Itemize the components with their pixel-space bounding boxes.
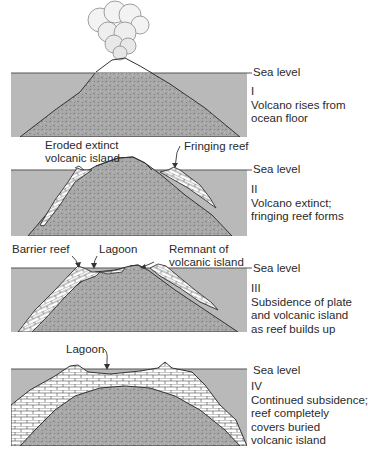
stage-2-caption: II Volcano extinct; fringing reef forms: [251, 183, 344, 224]
stage-1-desc-line: Volcano rises from: [251, 99, 346, 113]
barrier-reef-callout: Barrier reef: [12, 243, 70, 256]
stage-2-numeral: II: [251, 183, 344, 197]
fringing-reef-callout: Fringing reef: [184, 140, 249, 153]
stage-2-desc-line: fringing reef forms: [251, 210, 344, 224]
stage-3-desc-line: and volcanic island: [251, 309, 352, 323]
stage-3-desc-line: as reef builds up: [251, 323, 352, 337]
sea-level-label-3: Sea level: [253, 262, 300, 275]
stage-4-desc-line: Continued subsidence;: [251, 394, 368, 408]
stage-1-illustration: [11, 1, 247, 137]
stage-1-numeral: I: [251, 85, 346, 99]
sea-level-label-2: Sea level: [253, 163, 300, 176]
remnant-island-callout: Remnant of volcanic island: [169, 243, 244, 269]
stage-1-caption: I Volcano rises from ocean floor: [251, 85, 346, 126]
stage-3-caption: III Subsidence of plate and volcanic isl…: [251, 282, 352, 336]
stage-3-desc-line: Subsidence of plate: [251, 296, 352, 310]
stage-4-illustration: [11, 349, 247, 446]
stage-4-desc-line: volcanic island: [251, 434, 368, 448]
stage-4-desc-line: covers buried: [251, 421, 368, 435]
stage-4-numeral: IV: [251, 380, 368, 394]
sea-level-label-1: Sea level: [253, 66, 300, 79]
lagoon-callout-4: Lagoon: [66, 343, 104, 356]
eruption-cloud: [88, 1, 149, 60]
stage-4-caption: IV Continued subsidence; reef completely…: [251, 380, 368, 448]
stage-4-desc-line: reef completely: [251, 407, 368, 421]
stage-1-desc-line: ocean floor: [251, 112, 346, 126]
lagoon-callout-3: Lagoon: [99, 243, 137, 256]
stage-2-desc-line: Volcano extinct;: [251, 197, 344, 211]
stage-3-numeral: III: [251, 282, 352, 296]
sea-level-label-4: Sea level: [253, 364, 300, 377]
eroded-island-callout: Eroded extinct volcanic island: [45, 139, 120, 165]
